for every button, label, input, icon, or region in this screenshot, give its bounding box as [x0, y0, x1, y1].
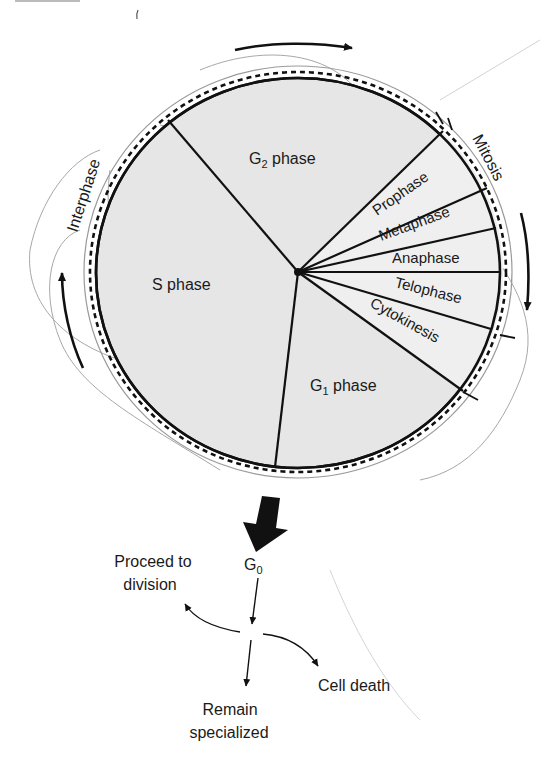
- remain-specialized-label: Remain: [202, 701, 257, 718]
- scan-artifacts: [15, 1, 138, 19]
- cycle-arrow-left: [62, 273, 83, 368]
- s-phase-label: S phase: [152, 276, 211, 293]
- to-specialized-arrow: [246, 640, 251, 686]
- proceed-to-division-label-line2: division: [123, 576, 176, 593]
- exit-to-g0-arrow: [243, 496, 288, 552]
- interphase-label: Interphase: [64, 157, 104, 234]
- cell-cycle-diagram: Interphase Mitosis G2 phase S phase G1 p…: [0, 0, 546, 761]
- g0-down-arrow: [252, 578, 258, 624]
- remain-specialized-label-line2: specialized: [189, 724, 268, 741]
- g0-label: G0: [244, 556, 263, 576]
- anaphase-label: Anaphase: [392, 249, 460, 266]
- cycle-arrow-right: [521, 213, 528, 310]
- to-division-arrow: [185, 604, 240, 632]
- to-death-arrow: [263, 634, 318, 666]
- cell-death-label: Cell death: [318, 677, 390, 694]
- proceed-to-division-label: Proceed to: [114, 553, 191, 570]
- cycle-arrow-top: [235, 44, 352, 50]
